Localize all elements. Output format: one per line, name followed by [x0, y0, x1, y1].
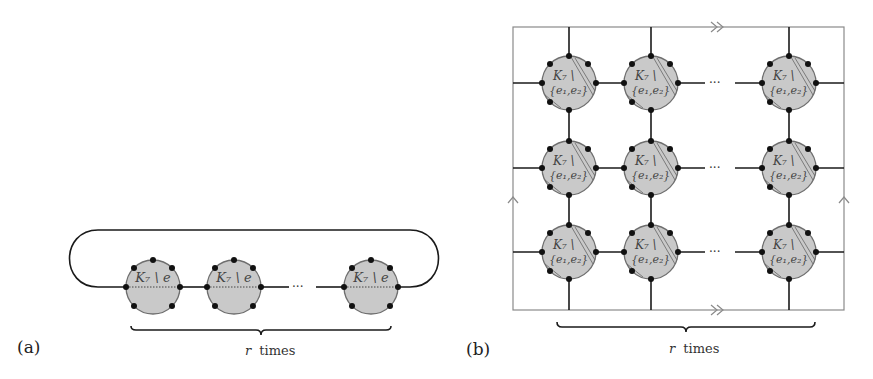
k7-minus-e1e2-node: K₇ \ {e₁,e₂}: [539, 138, 599, 198]
svg-text:{e₁,e₂}: {e₁,e₂}: [769, 253, 808, 266]
ellipsis: ···: [709, 245, 720, 259]
k7-minus-e1e2-node: K₇ \ {e₁,e₂}: [759, 138, 819, 198]
k7-minus-e-node: K₇ \ e: [123, 257, 183, 314]
k7-minus-e-node: K₇ \ e: [204, 257, 264, 314]
brace-label: r times: [245, 343, 295, 358]
k7-minus-e1e2-node: K₇ \ {e₁,e₂}: [621, 138, 681, 198]
svg-text:K₇ \: K₇ \: [634, 154, 657, 168]
k7-minus-e1e2-node: K₇ \ {e₁,e₂}: [759, 53, 819, 113]
panel-a: ··· K₇ \ e K₇ \ e: [17, 230, 439, 358]
svg-text:{e₁,e₂}: {e₁,e₂}: [631, 84, 670, 97]
k7-minus-e-node: K₇ \ e: [341, 257, 401, 314]
panel-b: ··· ··· ··· K₇ \ {e₁,e₂}: [466, 22, 849, 359]
ellipsis: ···: [709, 76, 720, 90]
svg-text:K₇ \: K₇ \: [634, 238, 657, 252]
caption-a: (a): [17, 337, 40, 357]
figure-canvas: ··· K₇ \ e K₇ \ e: [0, 0, 873, 379]
brace: [557, 322, 815, 332]
k7-minus-e1e2-node: K₇ \ {e₁,e₂}: [621, 53, 681, 113]
brace-label: r times: [669, 341, 719, 356]
k7-minus-e1e2-node: K₇ \ {e₁,e₂}: [621, 222, 681, 282]
svg-text:K₇ \: K₇ \: [772, 238, 795, 252]
svg-text:{e₁,e₂}: {e₁,e₂}: [549, 84, 588, 97]
k7-minus-e1e2-node: K₇ \ {e₁,e₂}: [539, 53, 599, 113]
svg-text:{e₁,e₂}: {e₁,e₂}: [549, 253, 588, 266]
svg-text:K₇ \: K₇ \: [552, 69, 575, 83]
svg-text:K₇ \ e: K₇ \ e: [134, 270, 171, 285]
ellipsis: ···: [292, 280, 303, 294]
svg-text:{e₁,e₂}: {e₁,e₂}: [549, 169, 588, 182]
svg-text:{e₁,e₂}: {e₁,e₂}: [769, 84, 808, 97]
svg-text:{e₁,e₂}: {e₁,e₂}: [631, 169, 670, 182]
brace: [131, 326, 391, 335]
svg-text:K₇ \: K₇ \: [772, 154, 795, 168]
svg-text:K₇ \: K₇ \: [634, 69, 657, 83]
svg-text:K₇ \ e: K₇ \ e: [352, 270, 389, 285]
svg-text:K₇ \: K₇ \: [772, 69, 795, 83]
svg-text:K₇ \ e: K₇ \ e: [215, 270, 252, 285]
ellipsis: ···: [709, 161, 720, 175]
svg-text:{e₁,e₂}: {e₁,e₂}: [631, 253, 670, 266]
svg-text:K₇ \: K₇ \: [552, 154, 575, 168]
k7-minus-e1e2-node: K₇ \ {e₁,e₂}: [759, 222, 819, 282]
svg-text:{e₁,e₂}: {e₁,e₂}: [769, 169, 808, 182]
caption-b: (b): [466, 339, 490, 359]
k7-minus-e1e2-node: K₇ \ {e₁,e₂}: [539, 222, 599, 282]
svg-text:K₇ \: K₇ \: [552, 238, 575, 252]
